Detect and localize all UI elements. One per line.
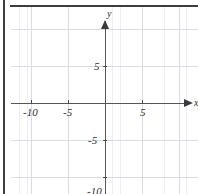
y-tick-neg10 bbox=[103, 177, 107, 178]
y-axis-arrowhead-icon bbox=[101, 20, 109, 29]
coordinate-plane-figure: -10 -5 5 5 -5 -10 x y bbox=[0, 0, 198, 194]
gridline-minor-vertical bbox=[164, 7, 165, 194]
plot-area: -10 -5 5 5 -5 -10 x y bbox=[11, 7, 198, 194]
x-tick-label-neg10: -10 bbox=[23, 107, 38, 118]
gridline-minor-vertical bbox=[27, 7, 28, 194]
y-tick-pos5 bbox=[103, 66, 107, 67]
x-axis-arrowhead-icon bbox=[184, 99, 193, 107]
x-tick-pos5 bbox=[142, 100, 143, 104]
gridline-minor-vertical bbox=[120, 7, 121, 194]
x-tick-label-neg5: -5 bbox=[63, 107, 72, 118]
x-axis-label: x bbox=[194, 98, 198, 108]
x-tick-label-pos5: 5 bbox=[140, 107, 146, 118]
x-axis-line bbox=[11, 103, 186, 104]
y-tick-neg5 bbox=[103, 140, 107, 141]
y-axis-label: y bbox=[107, 9, 111, 19]
gridline-major-vertical bbox=[179, 7, 180, 194]
gridline-minor-vertical bbox=[112, 7, 113, 194]
x-tick-neg5 bbox=[68, 100, 69, 104]
x-tick-neg10 bbox=[31, 100, 32, 104]
y-tick-label-neg10: -10 bbox=[87, 186, 102, 194]
y-tick-label-pos5: 5 bbox=[94, 61, 100, 72]
page-frame-left-edge bbox=[3, 0, 5, 194]
y-axis-line bbox=[105, 21, 106, 194]
gridline-minor-vertical bbox=[19, 7, 20, 194]
y-tick-label-neg5: -5 bbox=[88, 135, 97, 146]
